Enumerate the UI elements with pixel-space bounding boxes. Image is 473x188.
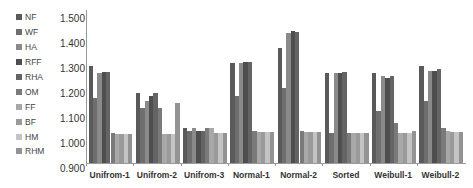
x-category-label: Weibull-2 xyxy=(410,170,470,180)
legend-item-bf: BF xyxy=(16,114,56,129)
y-axis-line xyxy=(86,10,87,163)
legend-label: RHA xyxy=(25,72,43,82)
y-tick-label: 1.500 xyxy=(60,13,85,24)
legend-swatch-icon xyxy=(16,14,22,20)
bar-rhm-normal-2 xyxy=(317,132,321,163)
legend-swatch-icon xyxy=(16,74,22,80)
bar-rhm-normal-1 xyxy=(270,132,274,163)
y-tick-label: 1.400 xyxy=(60,38,85,49)
x-tick xyxy=(133,163,134,166)
legend-item-rha: RHA xyxy=(16,70,56,85)
x-tick xyxy=(275,163,276,166)
legend-label: HA xyxy=(25,42,37,52)
y-tick-label: 1.200 xyxy=(60,88,85,99)
legend-swatch-icon xyxy=(16,104,22,110)
legend-swatch-icon xyxy=(16,44,22,50)
x-tick xyxy=(322,163,323,166)
y-axis: 0.9001.0001.1001.2001.3001.4001.500 xyxy=(55,0,85,188)
legend-swatch-icon xyxy=(16,119,22,125)
bar-rhm-weibull-1 xyxy=(412,131,416,164)
legend-label: RHM xyxy=(25,146,44,156)
legend-label: NF xyxy=(25,12,36,22)
legend-item-ha: HA xyxy=(16,40,56,55)
legend-swatch-icon xyxy=(16,134,22,140)
bar-rhm-sorted xyxy=(364,133,368,163)
y-tick-label: 1.100 xyxy=(60,113,85,124)
legend-label: FF xyxy=(25,102,35,112)
bar-rhm-weibull-2 xyxy=(459,132,463,163)
legend-swatch-icon xyxy=(16,89,22,95)
legend-item-om: OM xyxy=(16,84,56,99)
x-tick xyxy=(181,163,182,166)
legend-item-ff: FF xyxy=(16,99,56,114)
legend-swatch-icon xyxy=(16,59,22,65)
x-tick xyxy=(417,163,418,166)
chart-legend: NFWFHARFFRHAOMFFBFHMRHM xyxy=(16,10,56,159)
legend-item-rff: RFF xyxy=(16,55,56,70)
bar-rhm-unifrom-2 xyxy=(175,103,179,163)
legend-item-hm: HM xyxy=(16,129,56,144)
legend-label: WF xyxy=(25,27,38,37)
legend-swatch-icon xyxy=(16,148,22,154)
legend-label: OM xyxy=(25,87,39,97)
legend-item-wf: WF xyxy=(16,25,56,40)
legend-label: BF xyxy=(25,117,36,127)
y-tick-label: 1.300 xyxy=(60,63,85,74)
x-tick xyxy=(86,163,87,166)
legend-label: RFF xyxy=(25,57,42,67)
legend-item-nf: NF xyxy=(16,10,56,25)
legend-item-rhm: RHM xyxy=(16,144,56,159)
y-tick-label: 1.000 xyxy=(60,138,85,149)
legend-swatch-icon xyxy=(16,29,22,35)
x-tick xyxy=(228,163,229,166)
x-axis-line xyxy=(86,163,466,164)
bar-rhm-unifrom-1 xyxy=(128,134,132,163)
x-tick xyxy=(370,163,371,166)
bar-rhm-unifrom-3 xyxy=(223,133,227,163)
plot-area: Unifrom-1Unifrom-2Unifrom-3Normal-1Norma… xyxy=(86,0,473,188)
legend-label: HM xyxy=(25,132,38,142)
